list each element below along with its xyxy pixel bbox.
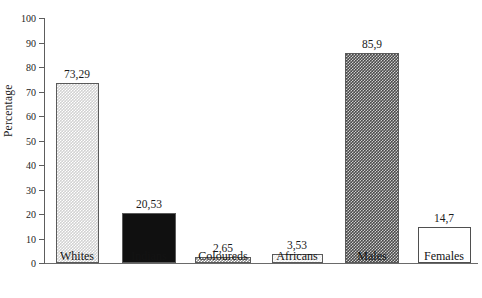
y-tick-mark — [39, 116, 45, 117]
category-label-africans: Africans — [276, 249, 317, 264]
y-tick-label: 0 — [31, 258, 36, 269]
category-label-whites: Whites — [60, 249, 94, 264]
y-tick-mark — [39, 18, 45, 19]
bar-value-label: 73,29 — [64, 68, 90, 80]
y-tick-mark — [39, 141, 45, 142]
category-label-coloureds: Coloureds — [198, 249, 247, 264]
y-tick-mark — [39, 190, 45, 191]
category-label-indians: Indians — [131, 249, 166, 264]
bar-chart: Percentage 0102030405060708090100 73,292… — [0, 0, 482, 298]
y-tick-mark — [39, 165, 45, 166]
y-tick-label: 80 — [26, 62, 36, 73]
bar-value-label: 20,53 — [136, 198, 162, 210]
y-tick-label: 90 — [26, 37, 36, 48]
y-tick-label: 50 — [26, 135, 36, 146]
y-tick-mark — [39, 67, 45, 68]
y-axis-title: Percentage — [2, 27, 14, 137]
y-tick-label: 40 — [26, 160, 36, 171]
bar-value-label: 14,7 — [434, 212, 454, 224]
category-label-males: Males — [357, 249, 386, 264]
plot-area: 0102030405060708090100 73,2920,532,653,5… — [44, 18, 478, 264]
y-tick-label: 10 — [26, 233, 36, 244]
y-tick-mark — [39, 239, 45, 240]
y-tick-label: 100 — [21, 13, 36, 24]
y-tick-mark — [39, 214, 45, 215]
y-tick-label: 70 — [26, 86, 36, 97]
bar-whites: 73,29 — [56, 83, 99, 263]
x-axis-line — [44, 263, 478, 264]
y-tick-label: 20 — [26, 209, 36, 220]
bar-value-label: 85,9 — [362, 38, 382, 50]
category-label-females: Females — [424, 249, 464, 264]
y-tick-mark — [39, 43, 45, 44]
y-tick-mark — [39, 92, 45, 93]
y-tick-label: 30 — [26, 184, 36, 195]
bar-males: 85,9 — [345, 53, 399, 263]
y-tick-mark — [39, 263, 45, 264]
y-tick-label: 60 — [26, 111, 36, 122]
